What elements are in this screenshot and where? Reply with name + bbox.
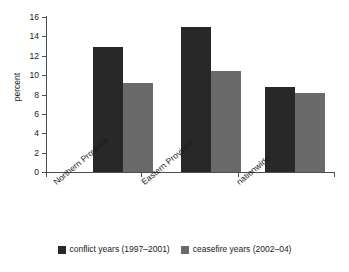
bar-ceasefire-2 — [295, 93, 325, 172]
legend-label: ceasefire years (2002–04) — [193, 245, 292, 254]
y-axis-tick — [42, 75, 46, 76]
y-axis-tick-label: 14 — [13, 32, 39, 41]
y-axis-tick — [42, 153, 46, 154]
bar-ceasefire-1 — [211, 71, 241, 172]
bar-chart-figure: percent 1614121086420 Northern ProvinceE… — [0, 0, 349, 272]
x-axis-tick — [46, 173, 47, 177]
y-axis-tick-label: 0 — [13, 168, 39, 177]
legend-label: conflict years (1997–2001) — [70, 245, 170, 254]
y-axis-tick — [42, 95, 46, 96]
legend-swatch-icon — [58, 246, 66, 254]
y-axis-tick — [42, 36, 46, 37]
y-axis-tick-label: 16 — [13, 13, 39, 22]
y-axis-tick-label: 2 — [13, 149, 39, 158]
legend-item-1[interactable]: ceasefire years (2002–04) — [181, 245, 292, 254]
legend-item-0[interactable]: conflict years (1997–2001) — [58, 245, 170, 254]
x-axis-line — [46, 172, 335, 173]
x-axis-tick — [334, 173, 335, 177]
y-axis-tick — [42, 114, 46, 115]
y-axis-tick-label: 8 — [13, 91, 39, 100]
y-axis-tick-label: 12 — [13, 52, 39, 61]
y-axis-tick-label: 4 — [13, 129, 39, 138]
y-axis-tick-label: 6 — [13, 110, 39, 119]
chart-legend: conflict years (1997–2001)ceasefire year… — [0, 245, 349, 254]
y-axis-tick — [42, 56, 46, 57]
bar-ceasefire-0 — [123, 83, 153, 172]
y-axis-tick — [42, 133, 46, 134]
y-axis-tick — [42, 17, 46, 18]
y-axis-tick-label: 10 — [13, 71, 39, 80]
legend-swatch-icon — [181, 246, 189, 254]
